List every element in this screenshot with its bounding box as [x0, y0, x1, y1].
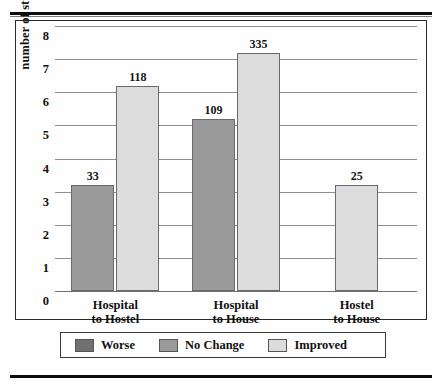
bar: 25: [335, 185, 378, 291]
bar: 33: [71, 185, 114, 291]
y-axis-tick-label: 5: [31, 129, 49, 142]
x-axis-category-label-line: Hostel: [296, 298, 417, 312]
legend-label-improved: Improved: [294, 338, 347, 353]
legend: Worse No Change Improved: [60, 332, 386, 358]
x-axis-category-label-line: to House: [176, 312, 297, 326]
gridline: [55, 291, 417, 292]
legend-item-no-change: No Change: [159, 338, 244, 353]
x-axis-category-label: Hospitalto House: [176, 298, 297, 326]
y-axis-tick-label: 0: [31, 295, 49, 308]
y-axis-tick-label: 6: [31, 96, 49, 109]
y-axis-title: number of studies: [18, 0, 33, 96]
bottom-rule: [10, 375, 432, 378]
x-axis-category-label: Hospitalto Hostel: [55, 298, 176, 326]
bar-value-label: 118: [129, 70, 146, 85]
top-rule: [10, 12, 432, 15]
y-axis-tick-label: 2: [31, 229, 49, 242]
x-axis-category-label-line: to Hostel: [55, 312, 176, 326]
x-axis-category-label-line: Hospital: [55, 298, 176, 312]
y-axis-tick-label: 7: [31, 63, 49, 76]
bar-group: 33118: [55, 26, 176, 291]
legend-item-improved: Improved: [268, 338, 347, 353]
bar-group: 109335: [176, 26, 297, 291]
x-axis-category-label: Hostelto House: [296, 298, 417, 326]
y-axis-tick-label: 4: [31, 163, 49, 176]
legend-swatch-worse: [75, 339, 94, 352]
bar: 335: [237, 53, 280, 292]
legend-label-no-change: No Change: [185, 338, 244, 353]
legend-swatch-no-change: [159, 339, 178, 352]
legend-item-worse: Worse: [75, 338, 135, 353]
plot-area: 012345678 3311810933525 Hospitalto Hoste…: [55, 26, 417, 291]
top-rule-hairline: [10, 16, 432, 17]
y-axis-tick-label: 1: [31, 262, 49, 275]
bar-value-label: 33: [87, 169, 99, 184]
y-axis-tick-label: 3: [31, 196, 49, 209]
y-axis-tick-label: 8: [31, 30, 49, 43]
legend-swatch-improved: [268, 339, 287, 352]
bar-value-label: 109: [204, 103, 222, 118]
legend-label-worse: Worse: [101, 338, 135, 353]
bar-group: 25: [296, 26, 417, 291]
bar-value-label: 25: [351, 169, 363, 184]
bar: 118: [116, 86, 159, 291]
bar: 109: [192, 119, 235, 291]
x-axis-category-label-line: to House: [296, 312, 417, 326]
bar-value-label: 335: [249, 37, 267, 52]
figure-container: number of studies 012345678 331181093352…: [0, 0, 442, 390]
x-axis-category-label-line: Hospital: [176, 298, 297, 312]
